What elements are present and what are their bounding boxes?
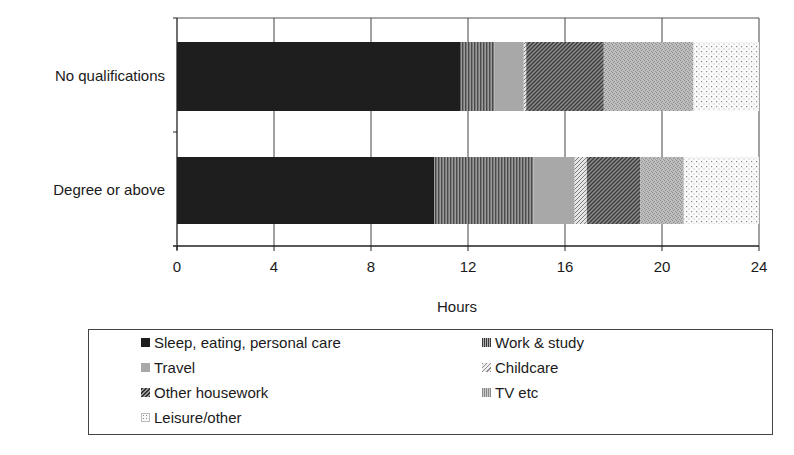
legend-label: TV etc: [495, 384, 538, 401]
legend-swatch-icon: [141, 413, 150, 422]
legend-item-other-housework: Other housework: [141, 384, 268, 401]
legend-item-work-study: Work & study: [482, 334, 584, 351]
legend-label: Other housework: [154, 384, 268, 401]
legend-item-leisure-other: Leisure/other: [141, 409, 242, 426]
legend: Sleep, eating, personal careWork & study…: [88, 329, 773, 435]
bar-segment-sleep-eating-personal-care: [177, 42, 461, 111]
stacked-bar-chart: No qualifications Degree or above 048121…: [0, 0, 794, 455]
legend-swatch-icon: [482, 363, 491, 372]
category-label-no-qualifications: No qualifications: [0, 67, 165, 84]
bar-segment-leisure-other: [694, 42, 759, 111]
legend-swatch-icon: [482, 338, 491, 347]
legend-swatch-icon: [141, 363, 150, 372]
legend-item-travel: Travel: [141, 359, 195, 376]
bar-segment-childcare: [575, 157, 587, 224]
bar-segment-travel: [495, 42, 524, 111]
legend-swatch-icon: [141, 338, 150, 347]
x-tick-label: 16: [557, 258, 574, 275]
legend-label: Sleep, eating, personal care: [154, 334, 341, 351]
bar-segment-travel: [533, 157, 574, 224]
legend-item-childcare: Childcare: [482, 359, 558, 376]
legend-label: Work & study: [495, 334, 584, 351]
x-tick-label: 4: [270, 258, 278, 275]
legend-item-sleep-eating-personal-care: Sleep, eating, personal care: [141, 334, 341, 351]
bar-segment-other-housework: [587, 157, 640, 224]
x-tick-label: 8: [367, 258, 375, 275]
bar-no-qualifications: [177, 42, 759, 111]
x-tick-label: 20: [654, 258, 671, 275]
bar-segment-childcare: [524, 42, 526, 111]
bar-segment-tv-etc: [604, 42, 694, 111]
bar-segment-sleep-eating-personal-care: [177, 157, 434, 224]
x-tick-label: 0: [173, 258, 181, 275]
bar-segment-leisure-other: [684, 157, 759, 224]
legend-item-tv-etc: TV etc: [482, 384, 538, 401]
bar-segment-work-study: [434, 157, 533, 224]
x-axis-title: Hours: [437, 298, 477, 315]
bar-segment-tv-etc: [640, 157, 684, 224]
legend-label: Travel: [154, 359, 195, 376]
legend-label: Leisure/other: [154, 409, 242, 426]
category-label-degree-or-above: Degree or above: [0, 181, 165, 198]
legend-swatch-icon: [141, 388, 150, 397]
x-tick-label: 12: [460, 258, 477, 275]
legend-swatch-icon: [482, 388, 491, 397]
x-tick-label: 24: [751, 258, 768, 275]
bar-degree-or-above: [177, 157, 759, 224]
bar-segment-other-housework: [526, 42, 604, 111]
legend-label: Childcare: [495, 359, 558, 376]
bar-segment-work-study: [461, 42, 495, 111]
